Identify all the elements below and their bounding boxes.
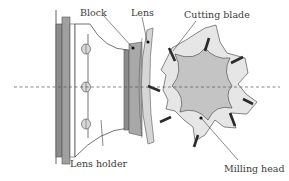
cutting-blade [160,117,171,122]
label-cutting-blade: Cutting blade [184,9,250,20]
label-milling-head: Milling head [224,163,285,174]
lens-milling-diagram: Block Lens Cutting blade Lens holder Mil… [0,0,289,181]
label-lens: Lens [131,7,154,18]
clamp-knob [82,44,91,54]
clamp-knob [82,119,91,129]
block [124,42,142,136]
label-block: Block [80,7,107,18]
label-lens-holder: Lens holder [70,158,128,169]
